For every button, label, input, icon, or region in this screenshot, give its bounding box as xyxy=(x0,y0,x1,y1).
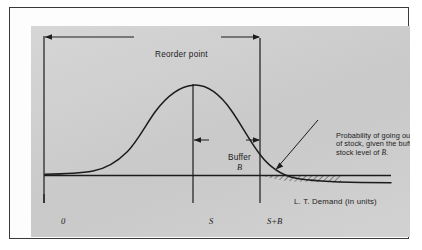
figure-outer-frame: Reorder point Buffer B Probability of go… xyxy=(9,7,409,239)
buffer-dimension xyxy=(194,137,260,142)
tick-label-s: S xyxy=(209,217,213,227)
stockout-probability-annotation: Probability of going out of stock, given… xyxy=(336,132,410,157)
buffer-label: Buffer xyxy=(228,153,251,162)
tick-label-origin: 0 xyxy=(61,217,65,227)
figure-plot-panel: Reorder point Buffer B Probability of go… xyxy=(31,26,410,237)
annotation-period: . xyxy=(386,148,388,157)
reorder-point-dimension xyxy=(45,34,260,39)
buffer-symbol-label: B xyxy=(237,163,242,172)
x-axis-label: L. T. Demand (in units) xyxy=(294,198,377,207)
annotation-line-3: stock level of B. xyxy=(336,149,410,157)
annotation-leader-line xyxy=(276,120,319,170)
tick-label-s-plus-b: S+B xyxy=(267,217,282,227)
annotation-line-3-text: stock level of xyxy=(336,148,382,157)
figure-screenshot: Reorder point Buffer B Probability of go… xyxy=(0,0,422,250)
reorder-point-label: Reorder point xyxy=(155,50,208,59)
